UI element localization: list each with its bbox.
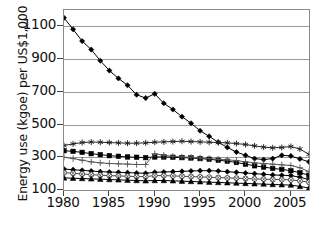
data-point (79, 157, 85, 163)
data-point (297, 156, 302, 161)
data-point (88, 159, 94, 165)
data-point (107, 153, 112, 158)
data-point (252, 171, 257, 176)
x-tick-mark (108, 191, 109, 196)
data-point (116, 154, 121, 159)
data-point (225, 169, 230, 174)
data-point (179, 169, 184, 174)
data-point (288, 153, 293, 158)
data-point (198, 168, 203, 173)
data-point (115, 161, 121, 167)
data-point (98, 152, 103, 157)
figure-caption (0, 222, 324, 230)
plot-area (63, 9, 310, 191)
data-point (143, 95, 148, 100)
series-layer (64, 10, 309, 190)
data-point (133, 161, 139, 167)
y-tick-label: 700 (0, 84, 56, 98)
data-point (64, 154, 67, 160)
data-point (70, 155, 76, 161)
data-point (306, 159, 309, 164)
data-point (307, 180, 310, 185)
data-point (124, 161, 130, 167)
data-point (143, 155, 148, 160)
y-tick-label: 300 (0, 149, 56, 163)
data-point (106, 160, 112, 166)
data-point (289, 168, 294, 173)
y-tick-label: 500 (0, 117, 56, 131)
data-point (89, 151, 94, 156)
data-point (234, 149, 239, 154)
data-point (125, 155, 130, 160)
y-tick-label: 900 (0, 51, 56, 65)
data-point (234, 170, 239, 175)
data-point (297, 146, 302, 152)
data-point (288, 177, 293, 182)
data-point (243, 170, 248, 175)
data-point (207, 134, 212, 139)
data-point (279, 153, 284, 158)
data-point (297, 178, 302, 183)
data-point (64, 170, 67, 175)
data-point (71, 149, 76, 154)
data-point (288, 162, 294, 168)
y-tick-label: 1100 (0, 18, 56, 32)
x-tick-mark (244, 191, 245, 196)
data-point (261, 172, 266, 177)
data-point (243, 153, 248, 158)
data-point (188, 168, 193, 173)
data-point (306, 151, 309, 157)
chart-figure: Energy use (kgoe) per US$1,000 100300500… (0, 0, 324, 230)
x-tick-label: 2005 (260, 196, 320, 210)
data-point (80, 150, 85, 155)
data-point (134, 155, 139, 160)
data-point (207, 168, 212, 173)
x-tick-mark (63, 191, 64, 196)
x-tick-mark (199, 191, 200, 196)
x-tick-mark (154, 191, 155, 196)
data-point (216, 168, 221, 173)
data-point (270, 156, 275, 161)
data-point (64, 148, 66, 153)
data-point (279, 177, 284, 182)
data-point (97, 160, 103, 166)
x-tick-mark (290, 191, 291, 196)
data-point (297, 165, 303, 171)
y-axis-title: Energy use (kgoe) per US$1,000 (15, 4, 30, 204)
